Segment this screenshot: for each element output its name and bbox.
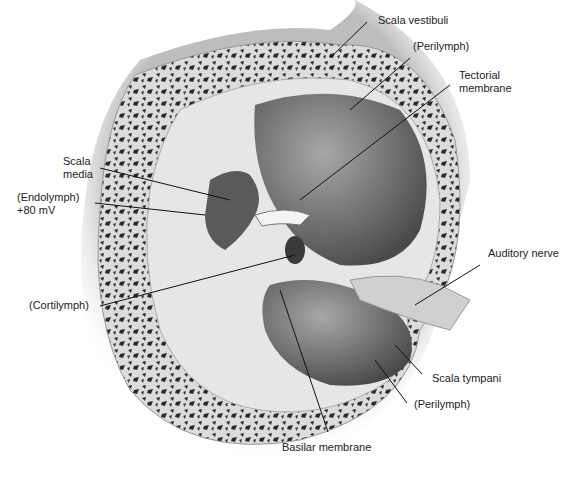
label-perilymph-bottom: (Perilymph) (414, 398, 470, 411)
label-endolymph-1: (Endolymph) (17, 191, 79, 204)
label-perilymph-top: (Perilymph) (413, 40, 469, 53)
label-cortilymph: (Cortilymph) (29, 299, 89, 312)
label-scala-vestibuli: Scala vestibuli (378, 14, 448, 27)
label-scala-tympani: Scala tympani (432, 372, 501, 385)
label-basilar-membrane: Basilar membrane (282, 441, 371, 454)
tectorial-membrane (255, 210, 310, 226)
label-auditory-nerve: Auditory nerve (488, 247, 559, 260)
label-scala-media-2: media (63, 168, 93, 181)
label-tectorial-1: Tectorial (459, 69, 500, 82)
label-endolymph-2: +80 mV (17, 204, 55, 217)
label-scala-media-1: Scala (63, 155, 91, 168)
label-tectorial-2: membrane (459, 82, 512, 95)
